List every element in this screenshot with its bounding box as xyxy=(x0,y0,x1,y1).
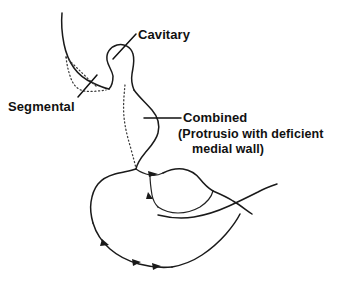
label-cavitary: Cavitary xyxy=(138,27,190,42)
label-combined-detail: (Protrusio with deficientmedial wall) xyxy=(178,127,324,156)
label-combined: Combined xyxy=(183,110,247,125)
label-combined-detail-line2: medial wall) xyxy=(178,142,324,157)
figure-canvas: Segmental Cavitary Combined (Protrusio w… xyxy=(0,0,350,282)
lateral-wall-contour xyxy=(134,90,159,169)
iliac-superior-contour xyxy=(62,13,109,89)
inferior-body-right-contour xyxy=(172,214,240,267)
inner-ridge-contour xyxy=(158,191,213,213)
inferior-arrow-right-icon xyxy=(152,263,161,270)
arcuate-line-contour xyxy=(150,175,158,207)
ilium-right-flare-contour xyxy=(163,169,213,191)
label-combined-detail-line1: (Protrusio with deficient xyxy=(178,127,324,141)
teardrop-arrow-icon xyxy=(148,171,158,177)
label-segmental: Segmental xyxy=(8,99,75,114)
medial-wall-deficiency-dotted xyxy=(124,85,136,169)
ischium-upper-left-contour xyxy=(91,169,136,223)
